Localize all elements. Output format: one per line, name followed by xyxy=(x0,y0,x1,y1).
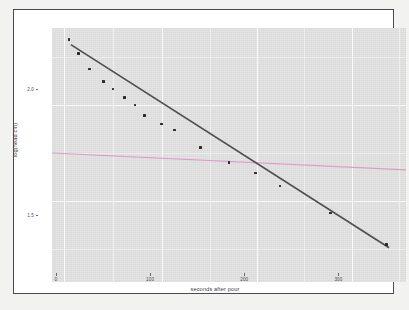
x-tick-mark xyxy=(244,273,245,276)
x-axis-title: seconds after pour xyxy=(38,286,392,292)
chart-screenshot: 1.52.0 0100200300 seconds after pour log… xyxy=(0,0,409,310)
plot-lines-layer xyxy=(52,28,406,282)
data-point xyxy=(385,243,388,246)
y-tick-mark xyxy=(36,215,39,216)
data-point xyxy=(134,104,137,107)
plot-panel xyxy=(52,28,406,282)
data-point xyxy=(77,52,80,55)
data-point xyxy=(228,161,231,164)
x-tick-label: 300 xyxy=(325,277,351,282)
x-tick-label: 200 xyxy=(231,277,257,282)
y-axis-title: log(head cm) xyxy=(12,92,18,188)
y-tick-label: 1.5 xyxy=(8,213,34,218)
data-point xyxy=(160,123,163,126)
data-point xyxy=(88,68,91,71)
data-point xyxy=(143,114,146,117)
x-tick-label: 100 xyxy=(137,277,163,282)
y-tick-mark xyxy=(36,89,39,90)
x-tick-mark xyxy=(56,273,57,276)
data-point xyxy=(173,129,176,132)
data-point xyxy=(102,80,105,83)
data-point xyxy=(68,38,71,41)
data-point xyxy=(199,146,202,149)
data-point xyxy=(329,212,332,215)
x-tick-mark xyxy=(338,273,339,276)
data-point xyxy=(254,172,257,175)
x-tick-label: 0 xyxy=(43,277,69,282)
data-point xyxy=(123,96,126,99)
fitted-regression-line xyxy=(71,45,389,248)
plot-device-frame: 1.52.0 0100200300 xyxy=(13,9,394,294)
data-point xyxy=(279,185,282,188)
x-tick-mark xyxy=(150,273,151,276)
